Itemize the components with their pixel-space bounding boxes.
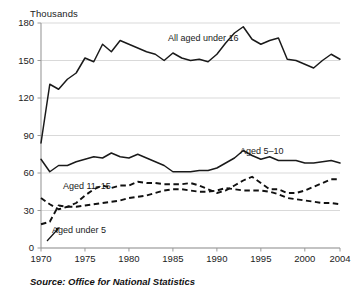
y-tick-label: 150 <box>18 55 34 66</box>
y-tick-label: 30 <box>23 205 34 216</box>
x-tick-label: 1995 <box>250 253 271 264</box>
data-series-group <box>41 27 340 225</box>
series-line-all-aged-under-16 <box>41 27 340 143</box>
series-line-aged-5-10 <box>41 151 340 172</box>
series-line-aged-under-5 <box>41 188 340 224</box>
x-axis-tick-labels: 19701975198019851990199520002004 <box>30 248 350 264</box>
y-tick-label: 120 <box>18 92 34 103</box>
x-tick-label: 1985 <box>162 253 183 264</box>
series-annotation-label: Aged under 5 <box>52 225 106 235</box>
gridlines-group <box>41 23 340 248</box>
x-tick-label: 2000 <box>294 253 315 264</box>
y-tick-label: 60 <box>23 167 34 178</box>
y-axis-tick-labels: 0306090120150180 <box>18 17 41 253</box>
series-annotation-label: All aged under 16 <box>168 33 239 43</box>
x-tick-label: 1975 <box>74 253 95 264</box>
source-note: Source: Office for National Statistics <box>30 276 195 287</box>
chart-figure: Thousands 0306090120150180 1970197519801… <box>0 0 354 293</box>
series-annotations-group: All aged under 16Aged 5–10Aged 11–15Aged… <box>47 33 284 241</box>
x-tick-label: 1990 <box>206 253 227 264</box>
line-chart-plot: 0306090120150180 19701975198019851990199… <box>0 0 354 293</box>
series-annotation-label: Aged 11–15 <box>63 181 111 191</box>
x-tick-label: 1980 <box>118 253 139 264</box>
y-tick-label: 180 <box>18 17 34 28</box>
series-annotation-label: Aged 5–10 <box>240 146 284 156</box>
x-tick-label: 1970 <box>30 253 51 264</box>
x-tick-label: 2004 <box>329 253 350 264</box>
y-tick-label: 0 <box>29 242 34 253</box>
y-tick-label: 90 <box>23 130 34 141</box>
